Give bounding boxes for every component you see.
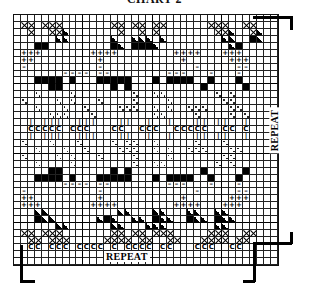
empty-cell (28, 84, 35, 91)
empty-cell (35, 98, 42, 105)
dot-cell (229, 154, 236, 161)
stitch-symbol: C (146, 244, 152, 250)
empty-cell (257, 119, 264, 126)
stitch-symbol: C (160, 244, 166, 250)
empty-cell (14, 209, 21, 216)
stitch-symbol: – (194, 64, 200, 70)
empty-cell (146, 168, 153, 175)
empty-cell (83, 57, 90, 64)
symbol-cell: C (125, 244, 132, 251)
empty-cell (111, 209, 118, 216)
empty-cell (243, 36, 250, 43)
empty-cell (97, 84, 104, 91)
empty-cell (187, 244, 194, 251)
empty-cell (111, 161, 118, 168)
empty-cell (236, 29, 243, 36)
stitch-symbol: + (97, 50, 103, 56)
empty-cell (104, 57, 111, 64)
empty-cell (132, 119, 139, 126)
dot-cell (229, 147, 236, 154)
empty-cell (187, 64, 194, 71)
empty-cell (208, 119, 215, 126)
empty-cell (181, 22, 188, 29)
stitch-symbol: | (146, 133, 152, 139)
empty-cell (215, 84, 222, 91)
stitch-symbol: – (236, 71, 242, 77)
empty-cell (132, 195, 139, 202)
dot-cell (49, 140, 56, 147)
empty-cell (208, 195, 215, 202)
stitch-symbol: C (132, 244, 138, 250)
symbol-cell: + (21, 202, 28, 209)
triangle-cell (49, 216, 56, 223)
empty-cell (21, 71, 28, 78)
empty-cell (97, 126, 104, 133)
empty-cell (208, 36, 215, 43)
empty-cell (236, 98, 243, 105)
dot-cell (236, 147, 243, 154)
empty-cell (21, 161, 28, 168)
stitch-symbol: + (174, 50, 180, 56)
empty-cell (271, 182, 278, 189)
dot-cell (153, 105, 160, 112)
triangle-cell (132, 216, 139, 223)
dot-cell (194, 140, 201, 147)
empty-cell (187, 154, 194, 161)
empty-cell (153, 251, 160, 258)
filled-cell (153, 77, 160, 84)
empty-cell (222, 71, 229, 78)
empty-cell (97, 91, 104, 98)
empty-cell (264, 209, 271, 216)
empty-cell (90, 258, 97, 265)
stitch-symbol: – (174, 182, 180, 188)
empty-cell (28, 71, 35, 78)
empty-cell (153, 244, 160, 251)
symbol-cell: + (187, 50, 194, 57)
stitch-symbol: – (63, 182, 69, 188)
triangle-cell (222, 36, 229, 43)
stitch-symbol: | (56, 133, 62, 139)
empty-cell (35, 64, 42, 71)
empty-cell (97, 140, 104, 147)
empty-cell (83, 202, 90, 209)
symbol-cell: + (104, 50, 111, 57)
dot-cell (97, 154, 104, 161)
empty-cell (187, 133, 194, 140)
empty-cell (97, 168, 104, 175)
empty-cell (208, 188, 215, 195)
empty-cell (42, 195, 49, 202)
empty-cell (146, 147, 153, 154)
empty-cell (76, 258, 83, 265)
symbol-cell: + (35, 50, 42, 57)
empty-cell (97, 230, 104, 237)
filled-cell (49, 77, 56, 84)
stitch-symbol: – (70, 182, 76, 188)
empty-cell (257, 230, 264, 237)
empty-cell (90, 57, 97, 64)
empty-cell (264, 22, 271, 29)
empty-cell (222, 77, 229, 84)
empty-cell (118, 161, 125, 168)
empty-cell (139, 182, 146, 189)
empty-cell (76, 202, 83, 209)
symbol-cell: C (187, 126, 194, 133)
empty-cell (118, 71, 125, 78)
empty-cell (257, 223, 264, 230)
filled-cell (118, 175, 125, 182)
empty-cell (187, 22, 194, 29)
filled-cell (187, 175, 194, 182)
stitch-symbol: + (222, 202, 228, 208)
empty-cell (97, 223, 104, 230)
empty-cell (63, 188, 70, 195)
empty-cell (194, 168, 201, 175)
dot-cell (167, 98, 174, 105)
empty-cell (63, 77, 70, 84)
empty-cell (215, 195, 222, 202)
empty-cell (208, 112, 215, 119)
stitch-symbol: | (201, 133, 207, 139)
filled-cell (187, 216, 194, 223)
empty-cell (132, 133, 139, 140)
empty-cell (63, 50, 70, 57)
symbol-cell: – (104, 182, 111, 189)
empty-cell (174, 105, 181, 112)
